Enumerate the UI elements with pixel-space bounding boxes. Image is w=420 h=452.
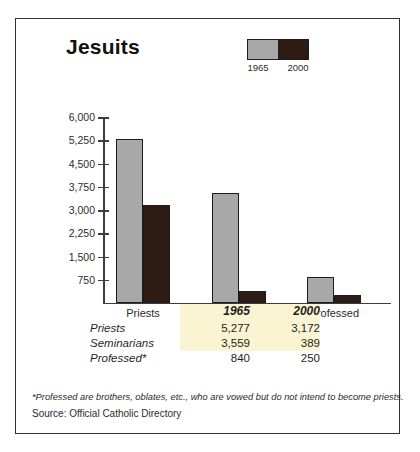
table-cell-1965: 3,559 bbox=[180, 336, 250, 351]
y-axis-tick-label: 5,250 bbox=[69, 134, 95, 146]
bar-group bbox=[295, 117, 391, 303]
y-axis-tick-label: 3,000 bbox=[69, 204, 95, 216]
y-axis-tick-label: 1,500 bbox=[69, 251, 95, 263]
data-table: 1965 2000 Priests5,2773,172Seminarians3,… bbox=[90, 304, 320, 366]
bar-seminarians-2000 bbox=[239, 291, 266, 303]
table-cell-2000: 3,172 bbox=[250, 321, 320, 336]
table-cell-2000: 389 bbox=[250, 336, 320, 351]
y-axis-tick-label: 750 bbox=[77, 274, 95, 286]
chart-figure: Jesuits 1965 2000 7501,5002,2503,0003,75… bbox=[15, 18, 400, 434]
bar-professed-1965 bbox=[307, 277, 334, 303]
y-axis-tick-label: 3,750 bbox=[69, 181, 95, 193]
table-cell-1965: 840 bbox=[180, 351, 250, 366]
table-cell-2000: 250 bbox=[250, 351, 320, 366]
source-text: Source: Official Catholic Directory bbox=[32, 408, 181, 419]
table-row: Professed*840250 bbox=[90, 351, 320, 366]
legend-label-1965: 1965 bbox=[238, 62, 278, 73]
legend-swatch-group bbox=[247, 39, 309, 60]
table-cell-1965: 5,277 bbox=[180, 321, 250, 336]
plot-area: 7501,5002,2503,0003,7504,5005,2506,000 P… bbox=[16, 89, 401, 314]
table-header-row: 1965 2000 bbox=[90, 304, 320, 321]
table-row-label: Priests bbox=[90, 321, 180, 336]
chart-legend: 1965 2000 bbox=[238, 39, 322, 73]
table-row: Seminarians3,559389 bbox=[90, 336, 320, 351]
bar-group bbox=[200, 117, 296, 303]
y-axis-tick-label: 6,000 bbox=[69, 111, 95, 123]
bar-professed-2000 bbox=[334, 295, 361, 303]
legend-swatch-1965 bbox=[248, 40, 278, 59]
bar-groups bbox=[104, 117, 391, 303]
legend-label-group: 1965 2000 bbox=[238, 62, 318, 73]
table-row: Priests5,2773,172 bbox=[90, 321, 320, 336]
bar-priests-2000 bbox=[143, 205, 170, 303]
bar-group bbox=[104, 117, 200, 303]
y-axis-tick-label: 4,500 bbox=[69, 158, 95, 170]
table-col-header-2000: 2000 bbox=[250, 304, 320, 321]
footnote-text: *Professed are brothers, oblates, etc., … bbox=[32, 392, 404, 402]
bar-priests-1965 bbox=[116, 139, 143, 303]
page-title: Jesuits bbox=[66, 35, 140, 59]
table-row-label: Seminarians bbox=[90, 336, 180, 351]
legend-label-2000: 2000 bbox=[278, 62, 318, 73]
table-row-label: Professed* bbox=[90, 351, 180, 366]
legend-swatch-2000 bbox=[278, 40, 308, 59]
y-axis-tick-label: 2,250 bbox=[69, 227, 95, 239]
table-col-header-1965: 1965 bbox=[180, 304, 250, 321]
bar-seminarians-1965 bbox=[212, 193, 239, 303]
table-corner-cell bbox=[90, 304, 180, 321]
